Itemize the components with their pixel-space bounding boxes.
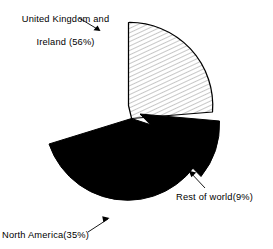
slice-united-kingdom-and-ireland[interactable] xyxy=(129,22,213,118)
slice-label-uk-line2: Ireland (56%) xyxy=(36,37,94,47)
slice-label-uk-line1: United Kingdom and xyxy=(22,14,110,24)
slice-label-united-kingdom-and-ireland: United Kingdom and Ireland (56%) xyxy=(4,2,116,60)
slice-label-rest-of-world: Rest of world(9%) xyxy=(176,192,253,204)
slice-label-north-america: North America(35%) xyxy=(2,230,89,242)
leader-arrowhead-north-america xyxy=(102,216,109,222)
leader-arrowhead-rest-of-world xyxy=(189,171,196,177)
pie-chart-figure: United Kingdom and Ireland (56%) North A… xyxy=(0,0,273,249)
